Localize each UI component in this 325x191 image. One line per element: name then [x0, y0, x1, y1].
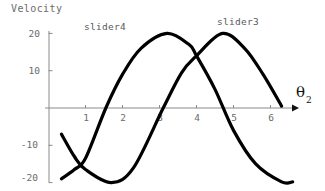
axis-lines: [45, 31, 299, 182]
plot-canvas: [0, 0, 325, 191]
x-axis-arrow-icon: [292, 105, 299, 112]
velocity-vs-theta2-chart: Velocity θ2 20 10 -10 -20 1 2 3 4 5 6 sl…: [0, 0, 325, 191]
